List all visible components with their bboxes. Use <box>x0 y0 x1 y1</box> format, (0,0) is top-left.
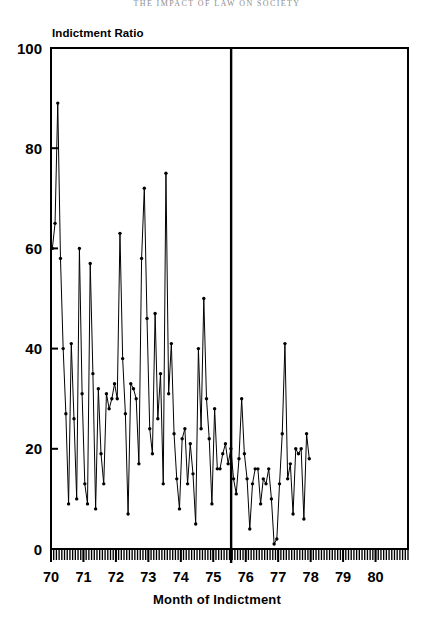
data-point <box>126 512 129 515</box>
data-point <box>291 512 294 515</box>
data-point <box>113 382 116 385</box>
x-axis-title: Month of Indictment <box>0 592 434 607</box>
data-point <box>83 482 86 485</box>
data-point <box>235 492 238 495</box>
data-point <box>137 462 140 465</box>
data-point <box>105 392 108 395</box>
figure-caption <box>10 617 310 625</box>
x-tick-label: 80 <box>367 569 383 585</box>
data-point <box>197 347 200 350</box>
data-point <box>129 382 132 385</box>
data-point <box>110 397 113 400</box>
data-point <box>210 502 213 505</box>
data-point <box>116 397 119 400</box>
data-point <box>107 407 110 410</box>
y-tick-label: 100 <box>17 40 42 57</box>
data-point <box>156 417 159 420</box>
x-tick-label: 76 <box>238 569 254 585</box>
data-point <box>53 222 56 225</box>
data-point <box>286 477 289 480</box>
data-point <box>224 442 227 445</box>
data-point <box>199 427 202 430</box>
data-point <box>97 387 100 390</box>
data-point <box>243 452 246 455</box>
data-point <box>75 497 78 500</box>
data-point <box>132 387 135 390</box>
data-point <box>167 392 170 395</box>
data-point <box>118 232 121 235</box>
data-point <box>221 452 224 455</box>
data-point <box>151 452 154 455</box>
data-point <box>175 477 178 480</box>
data-point <box>272 542 275 545</box>
data-point <box>281 432 284 435</box>
data-series-layer <box>51 101 311 545</box>
data-point <box>153 312 156 315</box>
data-point <box>148 427 151 430</box>
data-point <box>299 447 302 450</box>
x-tick-label: 74 <box>173 569 189 585</box>
data-point <box>191 472 194 475</box>
data-point <box>124 412 127 415</box>
data-point <box>240 397 243 400</box>
data-point <box>218 467 221 470</box>
x-tick-label: 78 <box>303 569 319 585</box>
data-point <box>189 442 192 445</box>
data-point <box>86 502 89 505</box>
data-series <box>51 101 311 545</box>
data-point <box>121 357 124 360</box>
data-point <box>67 502 70 505</box>
data-point <box>205 397 208 400</box>
data-point <box>248 527 251 530</box>
plot-border <box>51 48 408 549</box>
data-point <box>229 447 232 450</box>
data-point <box>264 482 267 485</box>
x-tick-label: 70 <box>43 569 59 585</box>
data-point <box>186 482 189 485</box>
data-point <box>51 247 54 250</box>
data-point <box>64 412 67 415</box>
y-tick-label: 40 <box>25 340 42 357</box>
data-point <box>283 342 286 345</box>
data-point <box>308 457 311 460</box>
data-point <box>275 537 278 540</box>
data-point <box>70 342 73 345</box>
x-tick-label: 73 <box>140 569 156 585</box>
chart-figure: 020406080100 7071727374757677787980 <box>0 0 434 630</box>
x-tick-label: 75 <box>205 569 221 585</box>
data-point <box>289 462 292 465</box>
data-point <box>94 507 97 510</box>
x-tick-label: 77 <box>270 569 286 585</box>
x-tick-label: 72 <box>108 569 124 585</box>
data-point <box>91 372 94 375</box>
data-point <box>251 482 254 485</box>
data-point <box>297 452 300 455</box>
data-point <box>237 457 240 460</box>
data-point <box>232 477 235 480</box>
data-point <box>89 262 92 265</box>
data-point <box>172 432 175 435</box>
data-point <box>180 437 183 440</box>
data-point <box>278 482 281 485</box>
data-point <box>72 417 75 420</box>
figure-page: THE IMPACT OF LAW ON SOCIETY Indictment … <box>0 0 434 630</box>
x-tick-label: 79 <box>335 569 351 585</box>
data-point <box>259 502 262 505</box>
data-point <box>194 522 197 525</box>
data-point <box>302 517 305 520</box>
data-point <box>245 477 248 480</box>
data-point <box>202 297 205 300</box>
plot-frame <box>51 48 408 549</box>
data-point <box>61 347 64 350</box>
data-point <box>56 101 59 104</box>
data-point <box>143 187 146 190</box>
data-point <box>99 452 102 455</box>
data-point <box>213 407 216 410</box>
data-point <box>102 482 105 485</box>
data-point <box>267 467 270 470</box>
data-point <box>262 477 265 480</box>
data-point <box>78 247 81 250</box>
x-axis-monthly-ticks <box>51 549 408 560</box>
data-point <box>294 447 297 450</box>
data-point <box>145 317 148 320</box>
